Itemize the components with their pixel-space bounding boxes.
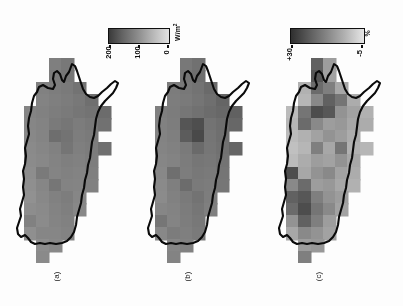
colorbar-wm2: 200 100 0 W/m2 [108, 28, 170, 44]
colorbar-wm2-tick-0 [167, 45, 169, 48]
map-a [12, 58, 122, 263]
colorbar-wm2-bar [108, 28, 170, 44]
panel-label-c: (c) [314, 272, 323, 281]
colorbar-pct-gradient [291, 29, 364, 43]
panel-a: (a) [0, 0, 134, 306]
raster-grid-a [12, 58, 122, 263]
colorbar-pct-unit: % [364, 30, 371, 36]
colorbar-wm2-label-0: 0 [162, 50, 171, 54]
colorbar-wm2-unit-text: W/m [174, 26, 181, 41]
colorbar-pct-label-minus5: -5 [355, 50, 364, 57]
colorbar-pct-bar [290, 28, 365, 44]
colorbar-pct-label-plus30: +30 [285, 48, 294, 61]
colorbar-pct: +30 -5 % [290, 28, 365, 44]
figure-canvas: (a) (b) (c) 200 100 0 W/m [0, 0, 403, 306]
panel-label-a: (a) [52, 272, 61, 282]
colorbar-pct-tick-minus5 [361, 45, 363, 48]
colorbar-wm2-unit: W/m2 [173, 23, 181, 41]
colorbar-wm2-label-200: 200 [104, 46, 113, 59]
colorbar-wm2-unit-exponent: 2 [173, 23, 178, 26]
map-c [274, 58, 384, 263]
raster-grid-c [274, 58, 384, 263]
panel-c: (c) [262, 0, 396, 306]
map-b [143, 58, 253, 263]
colorbar-wm2-gradient [109, 29, 169, 43]
panel-label-b: (b) [183, 272, 192, 282]
raster-grid-b [143, 58, 253, 263]
panel-b: (b) [131, 0, 265, 306]
colorbar-wm2-label-100: 100 [133, 46, 142, 59]
